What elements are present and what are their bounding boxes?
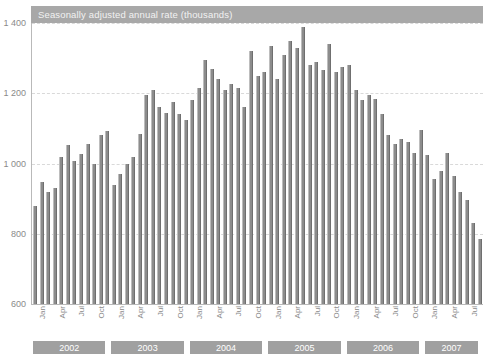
chart-title: Seasonally adjusted annual rate (thousan…	[31, 9, 232, 20]
year-band: 2005	[268, 341, 340, 354]
x-axis-tick-label: Apr	[293, 306, 302, 318]
bar	[105, 131, 109, 304]
x-axis-tick-label: Apr	[450, 306, 459, 318]
bar	[386, 135, 390, 304]
bar	[125, 164, 129, 305]
x-axis-month-labels: JanAprJulOctJanAprJulOctJanAprJulOctJanA…	[32, 306, 483, 336]
bar	[79, 154, 83, 304]
bar	[327, 44, 331, 304]
bar	[40, 182, 44, 304]
x-axis-tick-label: Oct	[97, 306, 106, 318]
x-axis-tick-label: Jan	[38, 306, 47, 319]
bar	[53, 188, 57, 304]
bar	[275, 79, 279, 304]
bar	[393, 144, 397, 304]
bar	[465, 200, 469, 304]
x-axis-tick-label: Jan	[195, 306, 204, 319]
bar	[354, 90, 358, 304]
bar	[197, 88, 201, 304]
bar	[425, 155, 429, 304]
bar	[157, 107, 161, 304]
bar	[471, 223, 475, 304]
year-band: 2003	[111, 341, 183, 354]
bar	[314, 62, 318, 304]
x-axis-tick-label: Apr	[136, 306, 145, 318]
bar	[210, 69, 214, 304]
bar	[295, 48, 299, 304]
bar	[452, 176, 456, 304]
bar	[399, 139, 403, 304]
bar	[131, 157, 135, 304]
y-axis-labels: 1 4001 2001 000800600	[0, 23, 28, 305]
bar	[72, 161, 76, 304]
bar	[432, 179, 436, 304]
bar	[242, 107, 246, 304]
bar	[236, 88, 240, 304]
bar	[177, 114, 181, 304]
bar	[151, 90, 155, 304]
bar	[282, 55, 286, 304]
bar	[439, 171, 443, 304]
bar	[33, 206, 37, 304]
y-axis-tick: 1 200	[0, 88, 26, 98]
bar	[86, 144, 90, 304]
bar	[138, 134, 142, 304]
bar	[216, 79, 220, 304]
bar	[308, 65, 312, 304]
bar	[373, 99, 377, 304]
x-axis-tick-label: Apr	[58, 306, 67, 318]
year-band: 2002	[33, 341, 105, 354]
bar	[301, 27, 305, 304]
year-band: 2006	[347, 341, 419, 354]
bar	[249, 51, 253, 304]
bar	[46, 192, 50, 304]
bar	[321, 70, 325, 304]
bar	[190, 100, 194, 304]
x-axis-tick-label: Jul	[391, 306, 400, 316]
bar	[59, 157, 63, 304]
bar-series	[32, 23, 483, 304]
bar	[367, 95, 371, 304]
bar	[229, 84, 233, 304]
bar	[171, 102, 175, 304]
year-band: 2007	[425, 341, 478, 354]
bar	[288, 41, 292, 304]
bar	[223, 90, 227, 304]
x-axis-tick-label: Jul	[470, 306, 479, 316]
bar	[360, 100, 364, 304]
bar	[262, 72, 266, 304]
bar	[419, 130, 423, 304]
x-axis-tick-label: Jul	[77, 306, 86, 316]
bar	[144, 95, 148, 304]
bar	[478, 239, 482, 304]
bar	[334, 72, 338, 304]
year-band: 2004	[190, 341, 262, 354]
y-axis-tick: 600	[0, 299, 26, 309]
x-axis-tick-label: Oct	[176, 306, 185, 318]
bar	[347, 65, 351, 304]
bar	[412, 153, 416, 304]
x-axis-tick-label: Oct	[254, 306, 263, 318]
x-axis-tick-label: Jan	[352, 306, 361, 319]
bar	[92, 164, 96, 305]
chart-root: Seasonally adjusted annual rate (thousan…	[0, 0, 486, 363]
x-axis-tick-label: Jan	[274, 306, 283, 319]
bar	[184, 120, 188, 304]
bar	[445, 153, 449, 304]
y-axis-tick: 1 000	[0, 159, 26, 169]
bar	[269, 46, 273, 304]
x-axis-tick-label: Jul	[313, 306, 322, 316]
x-axis-tick-label: Oct	[332, 306, 341, 318]
y-axis-tick: 1 400	[0, 18, 26, 28]
bar	[118, 174, 122, 304]
x-axis-tick-label: Oct	[411, 306, 420, 318]
x-axis-tick-label: Apr	[372, 306, 381, 318]
y-axis-tick: 800	[0, 229, 26, 239]
bar	[112, 185, 116, 304]
bar	[256, 76, 260, 304]
x-axis-tick-label: Jul	[156, 306, 165, 316]
x-axis-tick-label: Jan	[117, 306, 126, 319]
x-axis-year-bands: 200220032004200520062007	[32, 341, 483, 356]
bar	[458, 192, 462, 304]
bar	[406, 142, 410, 304]
